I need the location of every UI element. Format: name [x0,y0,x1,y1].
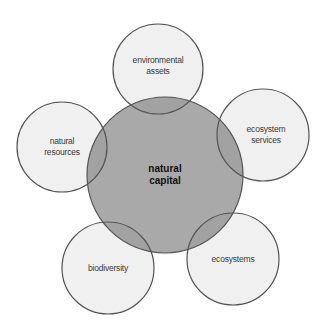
label-biodiversity: biodiversity [88,263,128,274]
label-natural-capital: natural capital [148,163,181,187]
label-natural-resources: natural resources [44,136,80,158]
label-ecosystem-services: ecosystem services [247,124,286,146]
label-ecosystems: ecosystems [212,254,255,265]
label-environmental-assets: environmental assets [133,55,184,77]
natural-capital-diagram: natural capital environmental assets eco… [0,0,327,328]
